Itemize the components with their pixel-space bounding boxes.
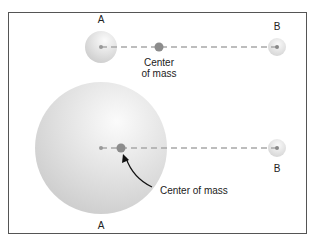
center-of-mass-diagram — [0, 0, 315, 242]
top-system — [85, 31, 286, 63]
top-center-of-mass-dot — [155, 43, 164, 52]
top-sphere-a-center-dot — [99, 45, 103, 49]
top-center-label-line2: of mass — [134, 68, 184, 79]
top-sphere-b-center-dot — [275, 45, 279, 49]
bottom-center-of-mass-dot — [117, 144, 126, 153]
bottom-sphere-a-center-dot — [99, 146, 103, 150]
bottom-label-b: B — [271, 163, 283, 174]
top-center-label-line1: Center — [134, 57, 184, 68]
top-label-b: B — [271, 21, 283, 32]
top-center-label: Center of mass — [134, 57, 184, 79]
bottom-center-label: Center of mass — [160, 185, 240, 196]
top-label-a: A — [95, 14, 107, 25]
bottom-label-a: A — [95, 220, 107, 231]
bottom-sphere-b-center-dot — [275, 146, 279, 150]
